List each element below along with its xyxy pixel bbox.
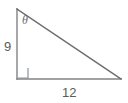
triangle-hypotenuse bbox=[17, 9, 121, 79]
angle-theta-label: θ bbox=[22, 14, 28, 26]
horizontal-leg-length-label: 12 bbox=[62, 86, 76, 99]
right-angle-marker-icon bbox=[18, 68, 28, 78]
geometry-figure: θ 9 12 bbox=[0, 0, 128, 103]
vertical-leg-length-label: 9 bbox=[4, 40, 11, 53]
